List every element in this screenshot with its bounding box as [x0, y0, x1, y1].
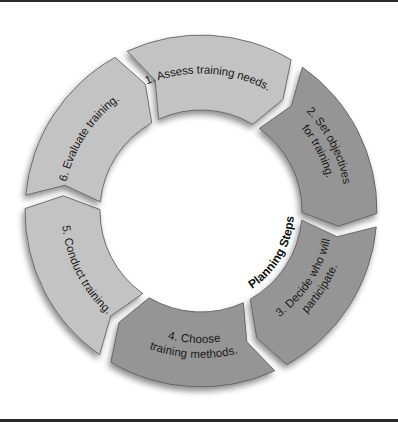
cycle-segments: 1. Assess training needs.2. Set objectiv…	[25, 35, 377, 387]
planning-cycle-diagram: 1. Assess training needs.2. Set objectiv…	[0, 0, 398, 422]
step-segment-4: 4. Choosetraining methods.	[111, 298, 275, 387]
step-segment-3: 3. Decide who willparticipate.	[250, 220, 376, 364]
step-segment-1: 1. Assess training needs.	[127, 35, 291, 124]
step-segment-6: 6. Evaluate training.	[26, 57, 152, 201]
